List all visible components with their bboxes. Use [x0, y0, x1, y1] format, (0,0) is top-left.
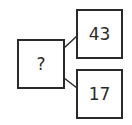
- child-label-top: 43: [89, 24, 111, 44]
- child-label-bottom: 17: [89, 84, 111, 104]
- root-label: ?: [36, 54, 45, 74]
- root-box: ?: [17, 39, 65, 89]
- child-box-top: 43: [76, 9, 123, 59]
- child-box-bottom: 17: [76, 69, 123, 119]
